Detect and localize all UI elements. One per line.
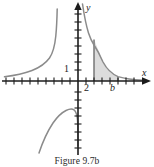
plot-canvas <box>0 0 154 167</box>
curve-lower-branch <box>39 109 78 153</box>
x-tick-label-2: 2 <box>84 83 89 93</box>
curve-right-branch <box>83 4 144 80</box>
figure-container: 1 2 b y x Figure 9.7b <box>0 0 154 167</box>
figure-caption: Figure 9.7b <box>0 156 154 166</box>
y-axis-label: y <box>86 3 90 13</box>
y-axis-arrowhead <box>74 2 81 10</box>
x-tick-label-b: b <box>110 83 115 93</box>
x-axis-arrowhead <box>142 77 151 84</box>
y-tick-label-1: 1 <box>64 64 69 74</box>
curve-left-branch <box>5 9 58 77</box>
x-axis-label: x <box>142 68 146 78</box>
